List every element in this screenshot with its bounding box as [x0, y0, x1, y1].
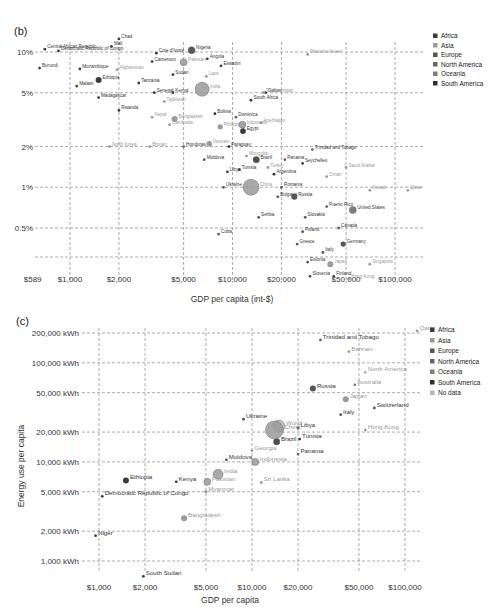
data-point-marker	[151, 116, 154, 119]
data-point: Chad	[118, 34, 133, 40]
data-point-marker	[296, 243, 299, 246]
chart-c-y-ticks: 200,000 kWh100,000 kWh50,000 kWh20,000 k…	[32, 329, 79, 566]
data-point-marker	[188, 47, 195, 54]
data-point-label: Chad	[121, 34, 132, 39]
data-point: Mozambique	[78, 64, 109, 70]
data-point-label: Finland	[336, 271, 352, 276]
data-point-marker	[151, 60, 154, 63]
data-point-label: Afghanistan	[120, 65, 145, 70]
legend-label: No data	[438, 389, 461, 396]
data-point: Sri Lanka	[260, 475, 290, 483]
data-point-marker	[163, 100, 166, 103]
data-point: Japan	[343, 392, 367, 402]
data-point-marker	[251, 449, 254, 452]
data-point-label: India	[224, 467, 238, 474]
data-point-marker	[368, 263, 371, 266]
data-point: Madagascar	[97, 93, 127, 99]
data-point-marker	[195, 82, 209, 96]
data-point: North America	[364, 365, 408, 373]
data-point: Argentina	[273, 169, 297, 175]
data-point: Romania	[280, 182, 303, 188]
data-point: Cuba	[217, 229, 232, 235]
data-point-marker	[416, 330, 419, 333]
legend-item: North America	[433, 61, 483, 68]
data-point-marker	[172, 73, 175, 76]
data-point: Burundi	[38, 63, 58, 69]
data-point-label: Slovenia	[312, 271, 330, 276]
data-point-label: Mozambique	[82, 64, 109, 69]
data-point-label: Turkey	[270, 163, 285, 168]
data-point-marker	[175, 480, 178, 483]
data-point-marker	[206, 57, 209, 60]
data-point-label: Hong Kong	[368, 423, 400, 430]
data-point: Sudan	[172, 70, 190, 76]
y-tick-label: 5,000 kWh	[41, 488, 79, 497]
data-point-marker	[243, 179, 259, 195]
data-point-marker	[343, 396, 349, 402]
data-point-label: Panama	[287, 155, 305, 160]
legend-swatch	[430, 380, 435, 385]
data-point: Australia	[353, 378, 381, 386]
legend-label: South America	[438, 379, 481, 386]
data-point-marker	[306, 53, 309, 56]
data-point: Kenya	[172, 88, 189, 94]
data-point-marker	[110, 45, 113, 48]
data-point-label: India	[210, 84, 220, 89]
legend-item: South America	[430, 379, 481, 386]
data-point-label: Kenya	[175, 88, 188, 93]
data-point-label: Paraguay	[231, 142, 251, 147]
data-point: India	[195, 82, 220, 96]
data-point-label: North Korea	[112, 142, 137, 147]
data-point-label: Puerto Rico	[329, 202, 353, 207]
data-point-label: Vietnam	[213, 139, 230, 144]
data-point-marker	[239, 121, 246, 128]
data-point-marker	[347, 278, 350, 281]
data-point-marker	[262, 91, 265, 94]
y-tick-label: 10%	[17, 48, 33, 57]
x-tick-label: $50,000	[344, 583, 373, 592]
data-point-marker	[332, 275, 335, 278]
data-point: Poland	[301, 227, 320, 233]
legend-item: Asia	[430, 337, 451, 344]
legend-swatch	[433, 72, 438, 77]
data-point-marker	[142, 575, 145, 578]
data-point-label: Romania	[284, 182, 303, 187]
data-point-label: Trinidad and Tobago	[323, 333, 380, 340]
data-point-marker	[168, 123, 171, 126]
legend-item: Oceania	[433, 70, 466, 77]
data-point-marker	[123, 477, 129, 483]
data-point-marker	[325, 175, 328, 178]
data-point-label: Brazil	[260, 155, 272, 160]
data-point: Laos	[205, 71, 219, 77]
y-tick-label: 20,000 kWh	[36, 428, 79, 437]
data-point-label: Madagascar	[101, 93, 127, 98]
data-point-marker	[253, 156, 259, 162]
data-point: China	[243, 179, 272, 195]
data-point-marker	[364, 429, 367, 432]
data-point-label: Senegal	[157, 88, 174, 93]
data-point-marker	[309, 275, 312, 278]
data-point-marker	[245, 155, 248, 158]
data-point: Ethiopia	[123, 473, 153, 483]
data-point: Ethiopia	[96, 75, 120, 83]
x-tick-label: $2,000	[133, 583, 158, 592]
data-point-marker	[148, 145, 151, 148]
data-point-marker	[373, 407, 376, 410]
data-point-label: Germany	[347, 239, 367, 244]
chart-c-x-axis-title: GDP per capita	[201, 595, 259, 605]
data-point: Estonia	[306, 257, 326, 263]
legend-swatch	[433, 43, 438, 48]
chart-c-x-ticks: $1,000$2,000$5,000$10,000$20,000$50,000$…	[87, 583, 422, 592]
x-tick-label: $1,000	[58, 275, 83, 284]
legend-swatch	[430, 391, 435, 396]
y-tick-label: 0.5%	[15, 224, 33, 233]
data-point-label: Slovakia	[308, 212, 326, 217]
data-point-label: Canada	[341, 223, 358, 228]
data-point-marker	[116, 68, 119, 71]
data-point-marker	[260, 121, 263, 124]
data-point-marker	[97, 96, 100, 99]
data-point-label: Argentina	[276, 169, 296, 174]
data-point-marker	[205, 75, 208, 78]
data-point-marker	[57, 49, 60, 52]
data-point: Turkey	[266, 163, 284, 169]
